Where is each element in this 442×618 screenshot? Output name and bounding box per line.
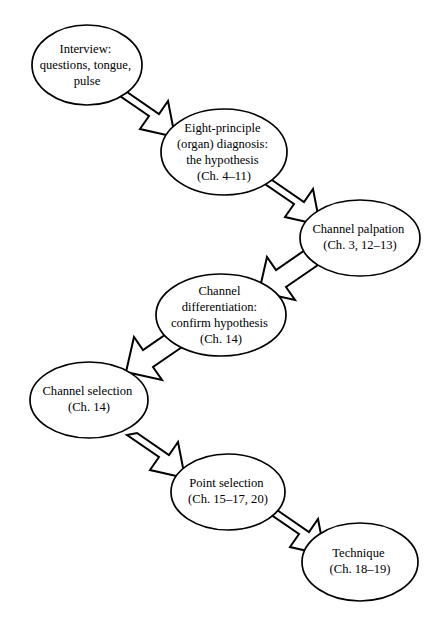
edge-channel-selection-to-point-selection [127, 433, 185, 478]
edge-interview-to-eight-principle [117, 92, 175, 137]
node-channel-palpation[interactable]: Channel palpation (Ch. 3, 12–13) [300, 200, 420, 276]
node-technique[interactable]: Technique (Ch. 18–19) [302, 523, 418, 601]
node-interview[interactable]: Interview: questions, tongue, pulse [32, 25, 142, 105]
node-channel-selection[interactable]: Channel selection (Ch. 14) [30, 362, 148, 438]
node-channel-differentiation[interactable]: Channel differentiation: confirm hypothe… [156, 274, 286, 356]
node-eight-principle[interactable]: Eight-principle (organ) diagnosis: the h… [161, 109, 287, 195]
flowchart-diagram: Interview: questions, tongue, pulse Eigh… [0, 0, 442, 618]
flowchart-canvas: Interview: questions, tongue, pulse Eigh… [0, 0, 442, 618]
node-point-selection[interactable]: Point selection (Ch. 15–17, 20) [171, 454, 285, 530]
